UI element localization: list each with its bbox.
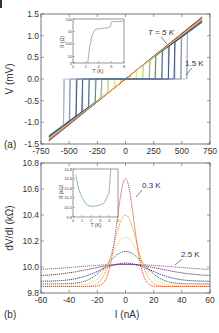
a-inset-xlabel: T (K) xyxy=(92,68,103,74)
x-tick-label: 40 xyxy=(177,295,187,305)
figure: -750-500-25002505007501.51.00.50.0-0.5-1… xyxy=(0,0,219,333)
svg-text:9.8: 9.8 xyxy=(66,215,72,220)
y-tick-label: 10.6 xyxy=(22,184,39,194)
b-ticks: -60-40-20020406010.810.610.410.210.09.8 xyxy=(22,158,215,305)
a-curve xyxy=(49,23,202,136)
svg-text:6: 6 xyxy=(110,64,113,69)
b-annotation-0-3k: 0.3 K xyxy=(142,181,161,190)
y-tick-label: 10.4 xyxy=(22,210,39,220)
x-tick-label: 750 xyxy=(203,146,217,156)
x-tick-label: -250 xyxy=(89,146,106,156)
y-tick-label: 0.0 xyxy=(27,74,39,84)
svg-text:0: 0 xyxy=(72,64,75,69)
y-tick-label: 10.8 xyxy=(22,158,39,168)
a-inset-ylabel: R (Ω) xyxy=(59,36,65,48)
svg-text:100: 100 xyxy=(65,41,72,46)
b-inset-ylabel: R (kΩ) xyxy=(58,184,64,199)
b-curve xyxy=(41,264,210,275)
y-tick-label: -0.5 xyxy=(24,96,39,106)
b-inset: 01234510.810.610.410.210.09.8 T (K) R (k… xyxy=(58,167,120,229)
x-tick-label: -20 xyxy=(91,295,104,305)
a-annotation-5k: T = 5 K xyxy=(148,28,175,37)
b-curve xyxy=(41,263,210,281)
x-tick-label: 20 xyxy=(149,295,159,305)
a-annotation-1-5k: 1.5 K xyxy=(185,59,204,68)
x-tick-label: -40 xyxy=(63,295,76,305)
y-tick-label: 10.0 xyxy=(22,262,39,272)
a-ylabel: V (mV) xyxy=(4,63,15,94)
svg-text:1k: 1k xyxy=(68,29,72,34)
svg-text:10.4: 10.4 xyxy=(64,186,73,191)
y-tick-label: -1.0 xyxy=(24,117,39,127)
b-arrow-2-5k xyxy=(175,259,182,265)
panel-a: -750-500-25002505007501.51.00.50.0-0.5-1… xyxy=(4,9,217,156)
x-tick-label: 0 xyxy=(123,146,128,156)
a-arrow-5k xyxy=(161,37,167,44)
svg-text:10.6: 10.6 xyxy=(64,176,73,181)
y-tick-label: 9.8 xyxy=(27,288,39,298)
b-arrow-0-3k xyxy=(136,190,142,197)
b-annotation-2-5k: 2.5 K xyxy=(181,250,200,259)
a-panel-label: (a) xyxy=(4,139,16,150)
x-tick-label: 250 xyxy=(147,146,161,156)
a-curves xyxy=(49,17,202,141)
b-ylabel: dV/dI (kΩ) xyxy=(4,205,15,250)
y-tick-label: 1.0 xyxy=(27,31,39,41)
svg-text:10: 10 xyxy=(68,54,73,59)
svg-text:10k: 10k xyxy=(66,17,72,22)
y-tick-label: 10.2 xyxy=(22,236,39,246)
y-tick-label: 0.5 xyxy=(27,52,39,62)
svg-text:10.0: 10.0 xyxy=(64,205,73,210)
b-curve xyxy=(41,264,210,269)
svg-text:10.2: 10.2 xyxy=(64,195,73,200)
b-xlabel: I (nA) xyxy=(115,309,139,320)
b-inset-xlabel: T (K) xyxy=(90,222,101,228)
a-inset: 0246810k1k100103 T (K) R (Ω) xyxy=(59,17,126,75)
y-tick-label: 1.5 xyxy=(27,9,39,19)
svg-text:4: 4 xyxy=(108,218,111,223)
x-tick-label: 0 xyxy=(123,295,128,305)
b-panel-label: (b) xyxy=(4,309,16,320)
y-tick-label: -1.5 xyxy=(24,139,39,149)
svg-text:8: 8 xyxy=(123,64,126,69)
x-tick-label: 500 xyxy=(175,146,189,156)
panel-b: -60-40-20020406010.810.610.410.210.09.8 … xyxy=(4,158,215,320)
x-tick-label: 60 xyxy=(205,295,215,305)
svg-text:1: 1 xyxy=(81,218,84,223)
crop-mark xyxy=(0,0,2,8)
x-tick-label: -500 xyxy=(61,146,78,156)
svg-text:2: 2 xyxy=(85,64,88,69)
b-curve xyxy=(41,237,210,285)
b-plot-frame xyxy=(41,163,210,293)
svg-text:10.8: 10.8 xyxy=(64,167,73,172)
svg-text:0: 0 xyxy=(72,218,75,223)
svg-text:5: 5 xyxy=(117,218,120,223)
